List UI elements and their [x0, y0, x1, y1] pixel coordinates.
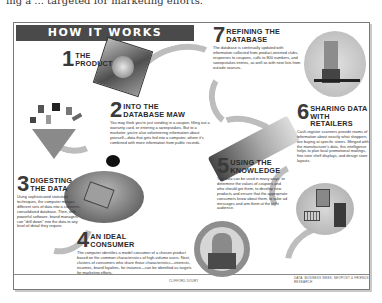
step-7-refining-the-database: 7 REFINING THE DATABASE The database is …	[213, 26, 301, 71]
step-title: AN IDEAL CONSUMER	[90, 231, 134, 248]
step-description: Using sophisticated statistical techniqu…	[17, 195, 83, 229]
data-funnel-illustration	[24, 101, 84, 163]
step-6-sharing-data-with-retailers: 6 SHARING DATA WITH RETAILERS Cash-regis…	[297, 103, 371, 164]
step-3-digesting-the-data: 3 DIGESTING THE DATA Using sophisticated…	[17, 175, 83, 229]
previous-page-text-fragment: ing a ... targeted for marketing efforts…	[6, 0, 246, 7]
step-2-into-the-database-maw: 2 INTO THE DATABASE MAW You may think yo…	[110, 101, 210, 146]
step-title: USING THE KNOWLEDGE	[230, 157, 280, 174]
database-refinery-illustration	[304, 31, 366, 97]
infographic-frame: HOW IT WORKS	[13, 22, 370, 290]
step-number: 6	[297, 103, 309, 121]
step-title: REFINING THE DATABASE	[226, 26, 280, 43]
infographic-title-banner: HOW IT WORKS	[16, 25, 194, 41]
step-number: 7	[213, 26, 225, 44]
step-description: The database is continually updated with…	[213, 46, 301, 71]
step-1-the-product: 1 THE PRODUCT	[62, 50, 104, 68]
step-description: Cash-register scanners provide reams of …	[297, 130, 371, 164]
step-4-an-ideal-consumer: 4 AN IDEAL CONSUMER The computer identif…	[77, 231, 195, 276]
step-description: The data can be used in many ways: to de…	[217, 177, 289, 211]
illustrator-credit: CLIFFORD DOURY	[169, 279, 198, 283]
data-source-credit: DATA: BUSINESS WEEK; NEOPOST & FRIENDS R…	[294, 276, 369, 284]
step-number: 3	[17, 175, 29, 193]
step-number: 2	[110, 101, 122, 119]
step-number: 4	[77, 231, 89, 249]
store-scanner-illustration	[296, 183, 354, 235]
frame-divider	[14, 274, 369, 275]
step-title: DIGESTING THE DATA	[30, 175, 72, 192]
step-title: THE PRODUCT	[75, 50, 112, 67]
target-consumer-illustration	[194, 221, 250, 277]
step-number: 1	[62, 50, 74, 68]
step-description: You may think you're just sending in a c…	[110, 121, 210, 146]
step-number: 5	[217, 157, 229, 175]
step-description: The computer identifies a model consumer…	[77, 251, 195, 276]
step-title: INTO THE DATABASE MAW	[123, 101, 185, 118]
piggy-bank-icon	[106, 155, 120, 167]
step-title: SHARING DATA WITH RETAILERS	[310, 103, 371, 128]
step-5-using-the-knowledge: 5 USING THE KNOWLEDGE The data can be us…	[217, 157, 289, 211]
